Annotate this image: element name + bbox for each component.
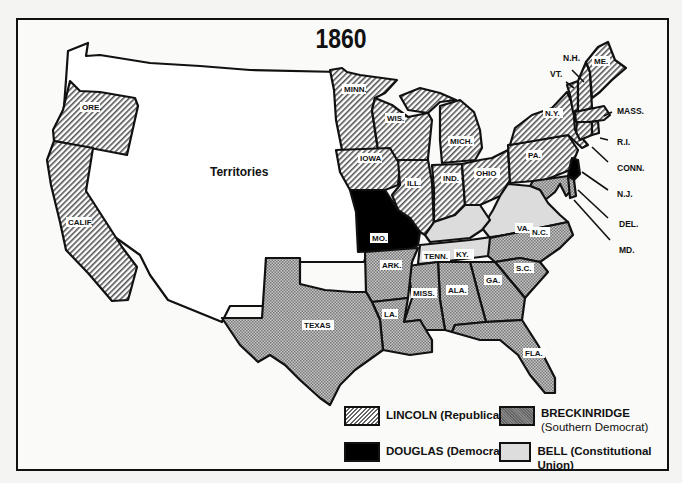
svg-text:MO.: MO. [372,234,387,243]
svg-text:N.C.: N.C. [532,228,548,237]
legend-label-breckinridge: BRECKINRIDGE [541,406,648,420]
legend-sublabel-breckinridge: (Southern Democrat) [541,420,648,434]
svg-text:ORE.: ORE. [82,103,102,112]
state-rhode-island [592,121,599,135]
svg-text:CALIF.: CALIF. [68,218,93,227]
svg-text:MISS.: MISS. [413,289,435,298]
legend-label-douglas: DOUGLAS (Democrat) [386,444,507,458]
svg-text:MINN.: MINN. [344,85,367,94]
svg-text:IOWA: IOWA [360,154,382,163]
svg-text:N.Y.: N.Y. [545,109,560,118]
territories-label: Territories [210,165,269,179]
legend-item-lincoln: LINCOLN (Republican) [344,406,510,426]
svg-text:MICH.: MICH. [450,137,473,146]
state-arkansas [365,248,418,302]
svg-text:N.J.: N.J. [617,189,633,199]
svg-text:OHIO: OHIO [476,169,496,178]
legend-label-lincoln: LINCOLN (Republican) [386,408,510,422]
svg-text:MASS.: MASS. [617,106,644,116]
legend-item-breckinridge: BRECKINRIDGE (Southern Democrat) [499,406,648,434]
bell-swatch [499,442,531,462]
legend: LINCOLN (Republican) BRECKINRIDGE (South… [344,404,674,468]
svg-text:GA.: GA. [486,276,500,285]
svg-text:DEL.: DEL. [619,219,638,229]
svg-text:PA.: PA. [528,151,541,160]
svg-text:KY.: KY. [456,250,468,259]
svg-text:MD.: MD. [619,245,635,255]
svg-text:ARK.: ARK. [382,261,402,270]
legend-item-bell: BELL (Constitutional Union) [499,442,674,472]
svg-text:ALA.: ALA. [448,286,467,295]
state-connecticut [576,122,592,140]
svg-text:VT.: VT. [550,69,562,79]
svg-text:FLA.: FLA. [525,349,543,358]
svg-text:LA.: LA. [384,310,397,319]
svg-text:ILL.: ILL. [407,179,421,188]
legend-item-douglas: DOUGLAS (Democrat) [344,442,507,462]
legend-label-bell: BELL (Constitutional Union) [537,444,674,472]
svg-text:TEXAS: TEXAS [304,321,331,330]
svg-text:CONN.: CONN. [617,163,644,173]
douglas-swatch [344,442,380,462]
svg-text:TENN.: TENN. [424,252,448,261]
state-maine [586,42,626,98]
svg-text:S.C.: S.C. [516,264,532,273]
svg-text:WIS.: WIS. [387,114,404,123]
state-delaware [568,176,576,198]
svg-text:VA.: VA. [517,224,530,233]
breckinridge-swatch [499,406,535,426]
state-michigan [440,100,482,163]
svg-text:ME.: ME. [594,57,608,66]
svg-text:R.I.: R.I. [617,137,630,147]
svg-text:IND.: IND. [443,174,459,183]
lincoln-swatch [344,406,380,426]
svg-text:N.H.: N.H. [563,53,580,63]
